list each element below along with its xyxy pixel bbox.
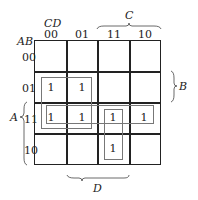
brace-label-C: C	[125, 10, 133, 21]
brace-label-D: D	[93, 183, 102, 194]
brace-label-B: B	[179, 81, 187, 92]
brace-lines	[0, 0, 198, 200]
brace-label-A: A	[10, 112, 18, 123]
